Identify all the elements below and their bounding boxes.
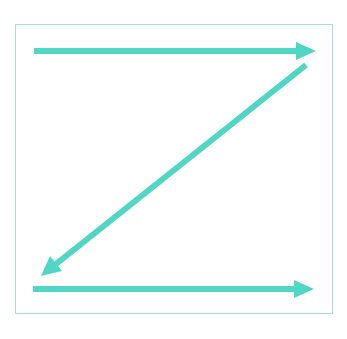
z-pattern-diagram (0, 0, 347, 339)
top-arrow-icon (34, 42, 316, 60)
bottom-arrow-icon (33, 280, 314, 298)
diagonal-arrow-icon (41, 65, 306, 276)
